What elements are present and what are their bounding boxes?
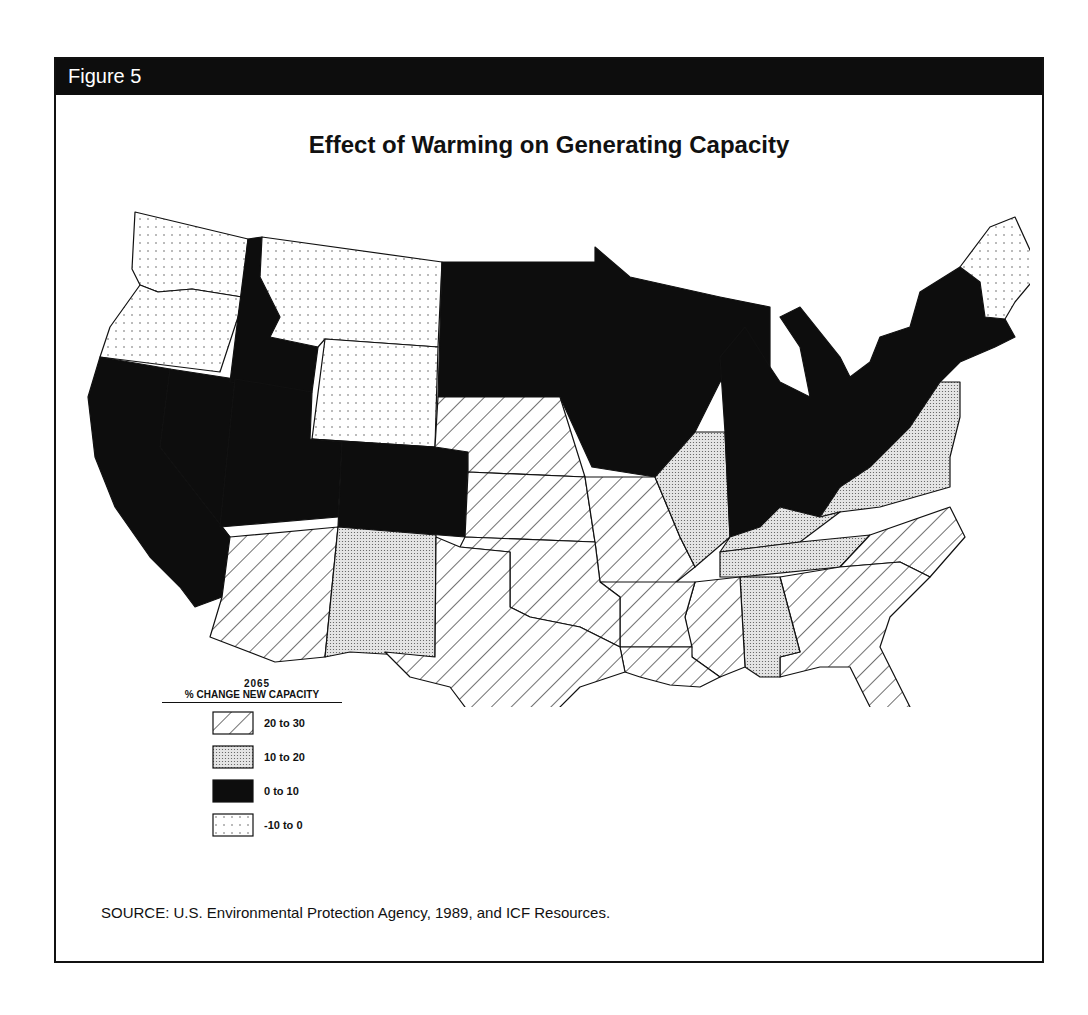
sparse-dots-swatch-icon — [212, 813, 254, 837]
state-sc-ga-fl — [780, 562, 930, 707]
dense-dots-swatch-icon — [212, 745, 254, 769]
source-note: SOURCE: U.S. Environmental Protection Ag… — [101, 904, 610, 921]
us-map — [80, 207, 1030, 707]
legend-heading: % CHANGE NEW CAPACITY — [162, 689, 342, 703]
state-wy — [312, 339, 438, 447]
state-az — [210, 527, 338, 662]
figure-frame: Figure 5 Effect of Warming on Generating… — [54, 57, 1044, 963]
legend-item-20-30: 20 to 30 — [212, 711, 362, 735]
legend-year: 2065 — [152, 678, 362, 689]
chart-title: Effect of Warming on Generating Capacity — [56, 131, 1042, 159]
hatched-swatch-icon — [212, 711, 254, 735]
legend-item-neg10-0: -10 to 0 — [212, 813, 362, 837]
state-wa — [132, 212, 248, 297]
state-mt — [260, 237, 442, 347]
state-ks — [465, 472, 595, 542]
figure-header: Figure 5 — [56, 59, 1042, 95]
legend-item-10-20: 10 to 20 — [212, 745, 362, 769]
solid-black-swatch-icon — [212, 779, 254, 803]
legend-item-0-10: 0 to 10 — [212, 779, 362, 803]
state-nm — [325, 527, 436, 657]
figure-label: Figure 5 — [68, 65, 141, 88]
legend: 2065 % CHANGE NEW CAPACITY 20 to 30 10 t… — [162, 678, 362, 847]
state-or — [100, 285, 242, 372]
